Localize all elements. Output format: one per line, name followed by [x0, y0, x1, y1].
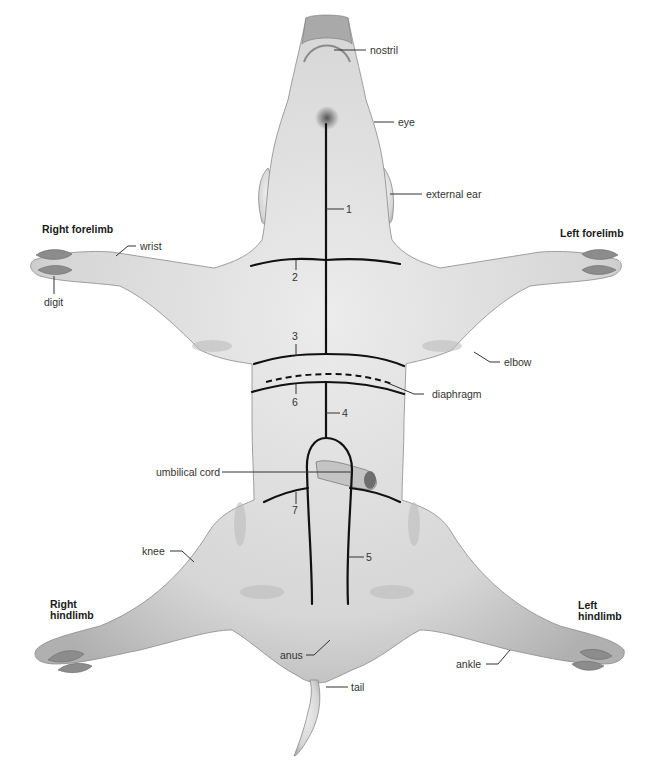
label-knee: knee [142, 545, 165, 557]
label-left-hindlimb-line2: hindlimb [578, 610, 622, 622]
right-thigh-shadow [240, 585, 284, 599]
label-right-forelimb: Right forelimb [42, 223, 113, 235]
left-groin-shadow [408, 502, 420, 546]
incision-number-5: 5 [366, 551, 372, 563]
label-elbow: elbow [504, 356, 532, 368]
incision-number-1: 1 [346, 203, 352, 215]
label-tail: tail [351, 681, 364, 693]
fetal-pig-diagram: 1 2 3 4 5 6 7 nostril eye external ear w… [0, 0, 654, 771]
label-ankle: ankle [456, 658, 481, 670]
right-elbow-shadow [192, 340, 232, 352]
label-wrist: wrist [139, 240, 162, 252]
incision-number-3: 3 [292, 330, 298, 342]
label-right-hindlimb-line2: hindlimb [50, 609, 94, 621]
pig-body [31, 15, 625, 756]
label-eye: eye [398, 116, 415, 128]
incision-number-6: 6 [292, 396, 298, 408]
incision-number-4: 4 [342, 407, 348, 419]
label-digit: digit [44, 296, 63, 308]
umbilical-cord-end [364, 471, 376, 489]
right-groin-shadow [234, 502, 246, 546]
label-anus: anus [280, 649, 303, 661]
tail-shape [294, 680, 320, 756]
incision-number-2: 2 [292, 271, 298, 283]
incision-number-7: 7 [292, 504, 298, 516]
label-umbilical-cord: umbilical cord [156, 466, 220, 478]
right-hind-digit-lower [58, 663, 92, 672]
diagram-canvas: 1 2 3 4 5 6 7 nostril eye external ear w… [0, 0, 654, 771]
left-thigh-shadow [370, 585, 414, 599]
label-left-forelimb: Left forelimb [560, 227, 624, 239]
label-diaphragm: diaphragm [432, 388, 482, 400]
left-elbow-shadow [422, 340, 462, 352]
label-nostril: nostril [370, 44, 398, 56]
label-external-ear: external ear [426, 188, 482, 200]
